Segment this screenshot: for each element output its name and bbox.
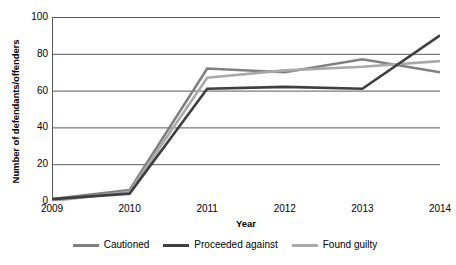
legend-label: Found guilty bbox=[323, 239, 377, 251]
x-axis-tick-labels: 200920102011201220132014 bbox=[52, 203, 440, 219]
legend-label: Proceeded against bbox=[194, 239, 277, 251]
x-axis-tick-label: 2009 bbox=[22, 203, 82, 215]
legend-swatch-icon bbox=[73, 244, 99, 247]
y-axis-tick-label: 80 bbox=[20, 49, 48, 59]
plot-area bbox=[52, 17, 440, 201]
x-axis-tick-label: 2013 bbox=[332, 203, 392, 215]
y-axis-tick-label: 20 bbox=[20, 159, 48, 169]
legend-label: Cautioned bbox=[104, 239, 150, 251]
legend-item[interactable]: Found guilty bbox=[292, 239, 377, 251]
plot-svg bbox=[52, 17, 440, 201]
chart-legend: CautionedProceeded againstFound guilty bbox=[0, 239, 450, 251]
x-axis-tick-label: 2014 bbox=[410, 203, 456, 215]
series-line bbox=[52, 61, 440, 201]
legend-item[interactable]: Proceeded against bbox=[163, 239, 277, 251]
y-axis-tick-label: 60 bbox=[20, 86, 48, 96]
legend-item[interactable]: Cautioned bbox=[73, 239, 150, 251]
x-axis-tick-label: 2012 bbox=[255, 203, 315, 215]
y-axis-tick-label: 100 bbox=[20, 12, 48, 22]
x-axis-tick-label: 2011 bbox=[177, 203, 237, 215]
legend-swatch-icon bbox=[163, 244, 189, 247]
x-axis-tick-label: 2010 bbox=[100, 203, 160, 215]
y-axis-tick-label: 40 bbox=[20, 122, 48, 132]
y-axis-tick-labels: 100806040200 bbox=[18, 0, 48, 265]
x-axis-title: Year bbox=[52, 218, 440, 229]
series-line bbox=[52, 35, 440, 199]
legend-swatch-icon bbox=[292, 244, 318, 247]
series-line bbox=[52, 59, 440, 199]
